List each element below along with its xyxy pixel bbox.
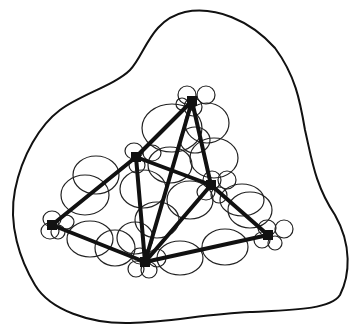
- node-upper-left: [131, 152, 141, 162]
- edge-upper-left-left: [52, 157, 136, 225]
- node-right: [263, 230, 273, 240]
- cover-ellipse: [275, 220, 293, 238]
- node-left: [47, 220, 57, 230]
- edge-left-bottom: [52, 225, 145, 262]
- node-bottom: [140, 257, 150, 267]
- boundary-outline: [13, 11, 348, 323]
- cover-ellipse: [228, 192, 272, 228]
- cover-ellipse: [61, 175, 109, 215]
- node-right-middle: [206, 180, 216, 190]
- diagram-canvas: [0, 0, 362, 333]
- node-top: [187, 96, 197, 106]
